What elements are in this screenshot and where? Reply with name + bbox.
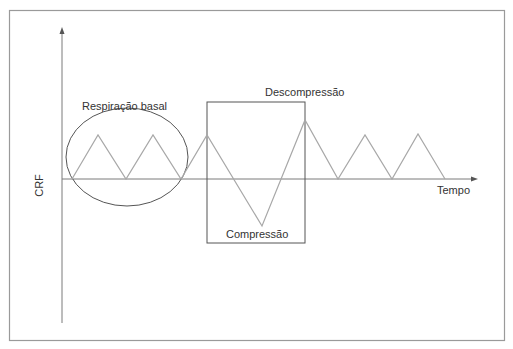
outer-frame <box>10 11 505 341</box>
basal-breathing-ellipse <box>66 108 188 206</box>
crf-waveform <box>72 120 445 226</box>
x-axis-label: Tempo <box>437 185 470 196</box>
basal-breathing-label: Respiração basal <box>82 101 167 112</box>
compression-box <box>207 102 305 243</box>
diagram-canvas: CRF Tempo Respiração basal Descompressão… <box>0 0 513 349</box>
y-axis-arrow-icon <box>60 27 65 34</box>
decompression-label: Descompressão <box>265 87 344 98</box>
y-axis-label: CRF <box>34 174 45 197</box>
x-axis-arrow-icon <box>471 177 478 182</box>
diagram-svg <box>0 0 513 349</box>
compression-label: Compressão <box>226 229 288 240</box>
